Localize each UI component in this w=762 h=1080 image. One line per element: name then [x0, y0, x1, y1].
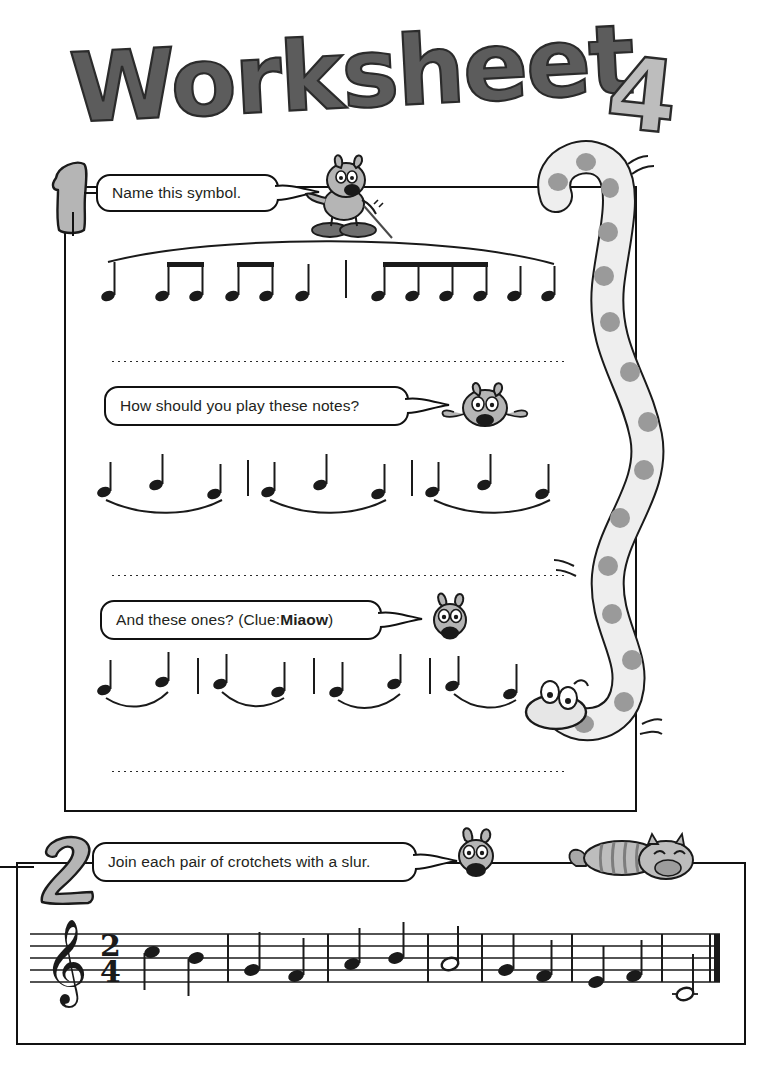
- staff-note: [243, 932, 262, 978]
- title-number-shape: 4: [601, 34, 682, 142]
- staff-note: [497, 934, 516, 978]
- note-crotchet: [294, 264, 310, 303]
- slur-group: [260, 454, 386, 513]
- slur-group: [96, 454, 222, 513]
- music-staff-question-2: 𝄞 2 4: [30, 916, 730, 1030]
- speech-bubble-how-play: How should you play these notes?: [104, 386, 409, 426]
- bubble-text-join-slur: Join each pair of crotchets with a slur.: [108, 853, 370, 871]
- small-dog-head-character: [424, 592, 476, 650]
- staff-note: [187, 950, 206, 996]
- speech-bubble-name-symbol: Name this symbol.: [96, 174, 279, 212]
- sleeping-cat: [566, 830, 696, 888]
- q2-left-rule: [0, 866, 34, 868]
- title-word-shape: Worksheet: [67, 22, 635, 142]
- staff-note: [587, 946, 606, 990]
- answer-line-2[interactable]: [110, 574, 565, 577]
- speech-bubble-and-these: And these ones? (Clue: Miaow): [100, 600, 382, 640]
- note-beamed-quaver-group: [370, 262, 488, 303]
- bubble-text-and-these-after: ): [328, 611, 333, 629]
- note-beamed-quaver-pair: [154, 262, 204, 303]
- staff-note: [287, 938, 306, 984]
- slur-pair: [212, 654, 286, 706]
- staff-note-minim: [440, 926, 460, 972]
- bubble-text-how-play: How should you play these notes?: [120, 397, 359, 415]
- bubble-text-and-these-before: And these ones? (Clue:: [116, 611, 280, 629]
- slur-pair: [444, 656, 518, 708]
- pointing-dog-character: [300, 152, 400, 246]
- q1-stem: [72, 212, 74, 236]
- answer-line-1[interactable]: [110, 360, 565, 363]
- svg-text:Worksheet: Worksheet: [67, 22, 635, 142]
- svg-text:4: 4: [100, 954, 121, 989]
- slur-pair: [96, 652, 170, 707]
- worksheet-page: Worksheet 4 Worksheet 4 1 Name this symb…: [0, 0, 762, 1080]
- note-beamed-quaver-pair: [224, 262, 274, 303]
- time-signature: 2 4: [100, 928, 121, 989]
- music-row-phrase-mark: [96, 240, 566, 314]
- speech-bubble-join-slur: Join each pair of crotchets with a slur.: [92, 842, 417, 882]
- staff-note: [387, 922, 406, 966]
- svg-text:4: 4: [601, 34, 682, 142]
- answer-line-3[interactable]: [110, 770, 565, 773]
- spotted-snake: [516, 136, 696, 760]
- staff-lines: [30, 934, 720, 982]
- treble-clef-icon: 𝄞: [44, 917, 88, 1008]
- bubble-text-miaow: Miaow: [280, 611, 328, 629]
- music-row-three-note-slurs: [96, 452, 566, 528]
- dog-head-character: [448, 826, 504, 888]
- snake-head: [526, 680, 588, 729]
- bubble-text-name-symbol: Name this symbol.: [112, 184, 241, 202]
- svg-text:𝄞: 𝄞: [44, 917, 88, 1008]
- page-title: Worksheet 4 Worksheet 4: [0, 22, 762, 142]
- staff-note-minim-ledger: [672, 954, 698, 1002]
- staff-note: [143, 944, 162, 990]
- note-crotchet: [100, 262, 116, 303]
- music-row-two-note-slurs: [96, 648, 566, 724]
- slur-pair: [328, 654, 402, 708]
